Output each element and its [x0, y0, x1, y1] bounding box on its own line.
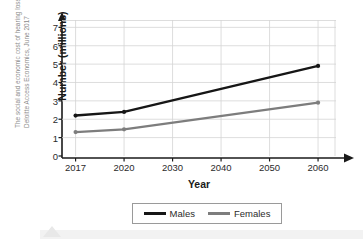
y-tick-label: 6 [42, 40, 58, 51]
legend-swatch-males [144, 212, 166, 215]
page-footer-triangle-icon [43, 226, 61, 237]
legend-label-males: Males [170, 208, 195, 219]
y-tick-labels: 01234567 [36, 20, 58, 156]
source-caption-line-2: Deloitte Access Economics, June 2017 [23, 0, 32, 128]
y-tick-label: 5 [42, 59, 58, 70]
page-footer-band [40, 230, 363, 239]
x-tick-label: 2050 [250, 162, 290, 173]
x-tick-label: 2060 [298, 162, 338, 173]
x-tick-label: 2020 [104, 162, 144, 173]
chart-series-layer [62, 20, 336, 156]
source-caption: The social and economic cost of hearing … [8, 0, 38, 128]
chart-screenshot: The social and economic cost of hearing … [0, 0, 363, 239]
legend-label-females: Females [234, 208, 270, 219]
plot-area [62, 20, 336, 156]
chart-legend: Males Females [132, 203, 282, 224]
y-tick-label: 1 [42, 132, 58, 143]
y-tick-label: 7 [42, 22, 58, 33]
x-tick-label: 2030 [153, 162, 193, 173]
x-axis-title: Year [62, 178, 336, 190]
legend-item-males: Males [144, 208, 195, 219]
y-tick-label: 2 [42, 114, 58, 125]
line-chart: Number (millions) 01234567 2017202020302… [36, 12, 358, 198]
source-caption-line-1: The social and economic cost of hearing … [14, 0, 23, 128]
legend-item-females: Females [208, 208, 270, 219]
y-tick-label: 0 [42, 151, 58, 162]
x-tick-label: 2040 [201, 162, 241, 173]
legend-swatch-females [208, 212, 230, 215]
y-tick-label: 4 [42, 77, 58, 88]
y-tick-label: 3 [42, 95, 58, 106]
x-tick-labels: 201720202030204020502060 [62, 162, 336, 178]
x-tick-label: 2017 [56, 162, 96, 173]
